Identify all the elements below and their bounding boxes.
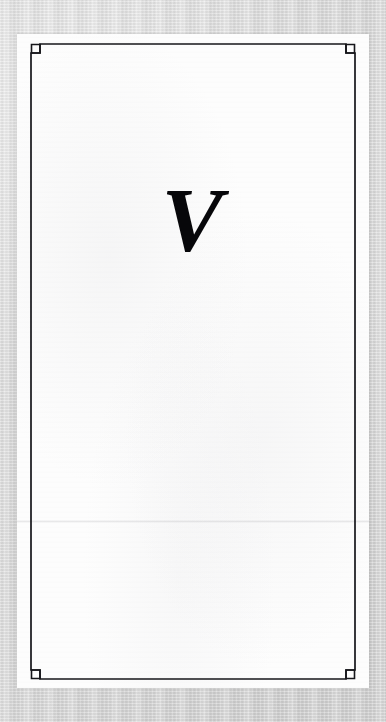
frame-outer-rule xyxy=(31,44,355,679)
corner-ornament-bottom-right xyxy=(346,670,355,679)
scanned-page-view: V xyxy=(0,0,386,722)
part-numeral: V xyxy=(17,174,369,266)
corner-ornament-top-left xyxy=(32,45,41,54)
frame-rule-svg xyxy=(24,44,362,679)
corner-ornament-top-right xyxy=(346,45,355,54)
corner-ornament-bottom-left xyxy=(32,670,41,679)
paper-sheet: V xyxy=(17,34,369,688)
decorative-page-frame xyxy=(24,44,362,679)
